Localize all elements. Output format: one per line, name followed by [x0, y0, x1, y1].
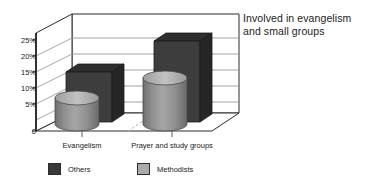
x-category-label-evangelism: Evangelism	[63, 141, 102, 150]
chart-title: Involved in evangelism and small groups	[243, 12, 368, 38]
y-tick-label: 0	[32, 127, 36, 136]
y-tick-label: 20%	[21, 52, 36, 61]
x-axis-ticks	[82, 131, 172, 137]
legend-label-methodists: Methodists	[157, 165, 193, 174]
legend-label-others: Others	[68, 165, 91, 174]
x-category-label-prayer: Prayer and study groups	[131, 141, 213, 150]
y-axis-labels: 25% 20% 15% 10% 5% 0	[0, 0, 36, 189]
chart-title-line-2: and small groups	[243, 25, 368, 38]
bar-methodists-evangelism	[55, 91, 99, 131]
legend-swatch-methodists	[137, 163, 150, 175]
legend-item-others: Others	[48, 163, 91, 175]
y-tick-label: 15%	[21, 68, 36, 77]
y-tick-label: 5%	[25, 100, 36, 109]
chart-title-line-1: Involved in evangelism	[243, 12, 368, 25]
legend-item-methodists: Methodists	[137, 163, 193, 175]
chart-container: 25% 20% 15% 10% 5% 0 Evangelism Prayer a…	[0, 0, 368, 189]
y-tick-label: 25%	[21, 36, 36, 45]
y-tick-label: 10%	[21, 84, 36, 93]
legend-swatch-others	[48, 163, 61, 175]
bar-methodists-prayer	[143, 71, 187, 131]
